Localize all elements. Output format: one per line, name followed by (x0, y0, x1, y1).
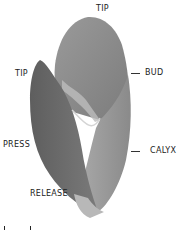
leader-bud (131, 73, 140, 74)
leader-calyx (131, 151, 140, 152)
label-tip-left: TIP (15, 69, 28, 78)
label-release: RELEASE (30, 189, 68, 198)
bud-illustration (0, 0, 186, 230)
label-bud: BUD (145, 68, 163, 77)
label-calyx: CALYX (150, 146, 176, 155)
label-tip-top: TIP (96, 4, 109, 13)
scale-tick-left (4, 226, 5, 230)
label-press: PRESS (3, 140, 30, 149)
scale-tick-right (30, 226, 31, 230)
